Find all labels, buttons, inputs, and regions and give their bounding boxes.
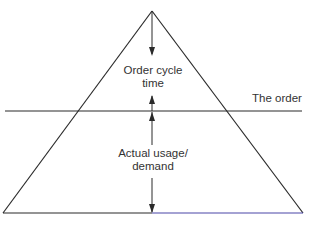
pyramid-svg xyxy=(0,0,315,226)
pyramid-diagram: Order cycle time The order Actual usage/… xyxy=(0,0,315,226)
actual-usage-line-1: Actual usage/ xyxy=(106,147,200,160)
arrowhead-down-icon xyxy=(149,204,155,213)
actual-usage-demand-label: Actual usage/ demand xyxy=(106,147,200,173)
order-cycle-line-2: time xyxy=(110,77,196,90)
the-order-label: The order xyxy=(252,92,302,105)
pyramid-right-side xyxy=(152,11,303,213)
order-cycle-time-label: Order cycle time xyxy=(110,64,196,90)
arrowhead-up-icon xyxy=(149,95,155,104)
actual-usage-line-2: demand xyxy=(106,160,200,173)
pyramid-left-side xyxy=(3,11,152,213)
arrowhead-down-icon xyxy=(149,47,155,56)
order-cycle-line-1: Order cycle xyxy=(110,64,196,77)
